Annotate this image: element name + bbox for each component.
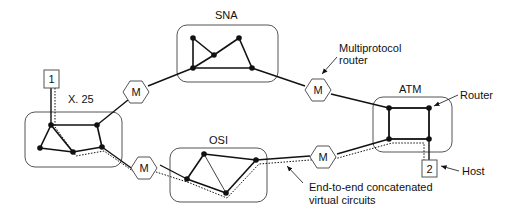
sna-network-cloud (177, 25, 278, 82)
sna-links (193, 38, 252, 68)
inter-network-links (51, 68, 429, 179)
multiprotocol-arrow (322, 57, 337, 74)
router-m3: M (131, 157, 157, 179)
x25-links (40, 125, 102, 152)
atm-label: ATM (399, 83, 421, 95)
router-label: Router (460, 89, 493, 101)
router-m4: M (310, 146, 336, 168)
sna-label: SNA (215, 9, 238, 21)
atm-network-cloud (373, 97, 452, 152)
svg-text:M: M (139, 162, 148, 174)
host-label: Host (462, 165, 485, 177)
svg-text:2: 2 (426, 163, 432, 175)
atm-links (389, 108, 429, 139)
osi-label: OSI (209, 134, 228, 146)
network-diagram: M M M M 1 2 SNA X. 25 OSI ATM Multiproto… (0, 0, 517, 217)
host-arrow (441, 166, 459, 171)
svg-text:M: M (131, 86, 140, 98)
svg-text:M: M (318, 151, 327, 163)
router-m2: M (305, 79, 331, 101)
router-m1: M (123, 81, 149, 103)
vc-label-2: virtual circuits (309, 194, 376, 206)
vc-arrow (287, 166, 303, 183)
multiprotocol-router-label-1: Multiprotocol (339, 42, 401, 54)
x25-network-cloud (25, 112, 122, 167)
osi-thin-link (204, 154, 226, 193)
host-1: 1 (44, 70, 59, 88)
svg-text:1: 1 (48, 73, 54, 85)
svg-text:M: M (313, 84, 322, 96)
host-2: 2 (422, 160, 437, 177)
vc-label-1: End-to-end concatenated (309, 181, 433, 193)
osi-links (187, 154, 256, 193)
multiprotocol-router-label-2: router (339, 54, 368, 66)
x25-label: X. 25 (68, 93, 94, 105)
